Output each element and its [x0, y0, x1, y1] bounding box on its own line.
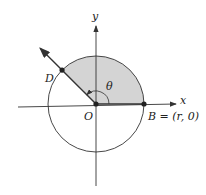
- angle-label: θ: [106, 80, 113, 93]
- y-axis-label: y: [91, 10, 99, 23]
- x-axis-label: x: [180, 94, 187, 107]
- point-b-label: B = (r, 0): [147, 110, 199, 123]
- point-d-label: D: [44, 72, 54, 85]
- point-d: [59, 67, 64, 72]
- point-b: [141, 101, 146, 106]
- shaded-sector: [62, 56, 144, 104]
- origin-label: O: [84, 110, 93, 123]
- origin-point: [93, 101, 98, 106]
- polar-sector-diagram: x y θ O D B = (r, 0): [0, 0, 206, 195]
